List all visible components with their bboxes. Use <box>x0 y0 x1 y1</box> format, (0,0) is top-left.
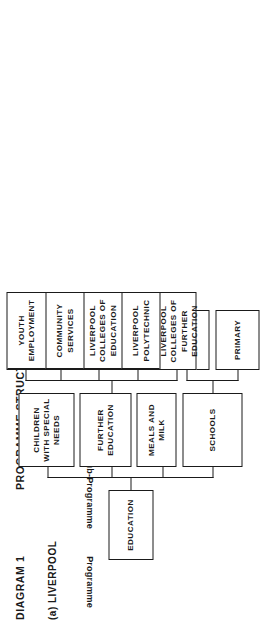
node-liverpool-polytechnic[interactable]: LIVERPOOL POLYTECHNIC <box>121 293 159 369</box>
connector-to-secondary <box>186 370 187 381</box>
node-further-education[interactable]: FURTHER EDUCATION <box>79 393 131 467</box>
diagram-sheet: DIAGRAM 1 PROGRAMME STRUCTURES (a) LIVER… <box>0 0 261 638</box>
connector-to-primary <box>237 370 238 381</box>
further-education-subprogramme-stack: LIVERPOOL COLLEGES OF FURTHER EDUCATION … <box>6 292 196 370</box>
connector-schools-stub <box>212 381 213 393</box>
connector-fe-stub <box>111 381 112 393</box>
connector-to-polytechnic <box>137 370 138 381</box>
node-community-services[interactable]: COMMUNITY SERVICES <box>45 293 83 369</box>
connector-education-stub <box>130 478 131 490</box>
connector-schools-spine <box>186 380 238 381</box>
node-education[interactable]: EDUCATION <box>108 490 153 560</box>
connector-to-meals <box>162 467 163 478</box>
subtitle-city-label: (a) LIVERPOOL <box>46 541 57 620</box>
connector-programme-spine <box>47 477 213 478</box>
connector-to-community-services <box>60 370 61 381</box>
connector-to-schools <box>212 467 213 478</box>
connector-fe-spine <box>25 380 177 381</box>
row-caption-programme: Programme <box>84 556 94 608</box>
node-liverpool-colleges-of-further-education[interactable]: LIVERPOOL COLLEGES OF FURTHER EDUCATION <box>159 293 197 369</box>
diagram-number-label: DIAGRAM 1 <box>14 556 26 620</box>
row-caption-sub-programme: Sub-Programme <box>84 456 94 529</box>
connector-to-further-education <box>111 467 112 478</box>
connector-to-colleges-ed <box>98 370 99 381</box>
connector-to-colleges-fe <box>176 370 177 381</box>
node-children-with-special-needs[interactable]: CHILDREN WITH SPECIAL NEEDS <box>18 393 74 467</box>
node-primary[interactable]: PRIMARY <box>215 310 259 370</box>
connector-to-youth-employment <box>25 370 26 381</box>
node-youth-employment[interactable]: YOUTH EMPLOYMENT <box>7 293 45 369</box>
connector-to-special-needs <box>47 467 48 478</box>
node-schools[interactable]: SCHOOLS <box>182 393 242 467</box>
node-meals-and-milk[interactable]: MEALS AND MILK <box>136 393 176 467</box>
node-liverpool-colleges-of-education[interactable]: LIVERPOOL COLLEGES OF EDUCATION <box>83 293 121 369</box>
